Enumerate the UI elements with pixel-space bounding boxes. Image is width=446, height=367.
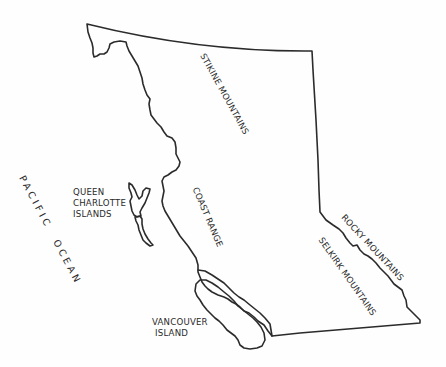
map-outline-graphic [0,0,446,367]
label-queen-charlotte-line3: ISLANDS [73,210,112,220]
label-queen-charlotte-line1: QUEEN [73,188,104,198]
label-vancouver-island-line1: VANCOUVER [152,318,208,328]
vancouver-island-outline [195,280,265,349]
queen-charlotte-moresby-island [135,216,153,246]
map-british-columbia: STIKINE MOUNTAINS COAST RANGE ROCKY MOUN… [0,0,446,367]
queen-charlotte-graham-island [129,183,150,217]
label-queen-charlotte-line2: CHARLOTTE [73,199,126,209]
label-vancouver-island-line2: ISLAND [155,329,188,339]
mainland-outline [87,24,420,336]
